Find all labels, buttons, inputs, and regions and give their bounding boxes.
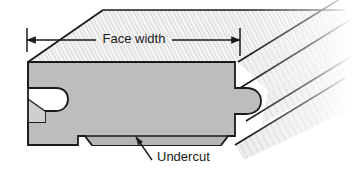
board-illustration: Face width Undercut bbox=[0, 0, 353, 171]
front-cross-section-face bbox=[28, 62, 261, 145]
figure-container: Face width Undercut bbox=[0, 0, 353, 171]
undercut-label: Undercut bbox=[157, 149, 210, 164]
undercut-bottom-recess bbox=[85, 136, 228, 145]
groove-left-edge bbox=[28, 99, 45, 122]
face-width-label: Face width bbox=[103, 31, 166, 46]
